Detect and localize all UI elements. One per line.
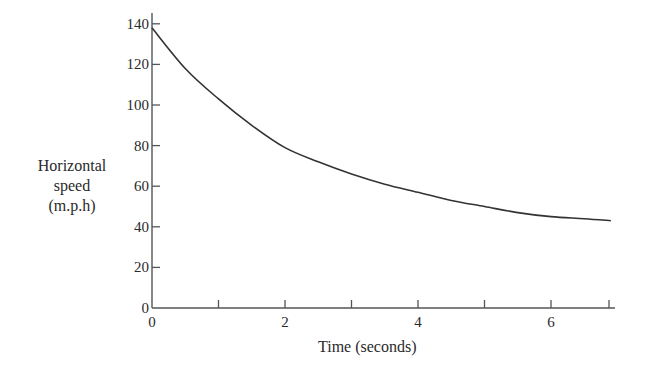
y-tick-label: 20: [134, 259, 149, 275]
y-tick-label: 40: [134, 219, 149, 235]
x-tick-label: 4: [414, 314, 422, 330]
y-tick-label: 140: [127, 16, 150, 32]
x-tick-label: 2: [281, 314, 289, 330]
x-tick-label: 0: [148, 314, 156, 330]
x-axis-label: Time (seconds): [318, 338, 417, 356]
y-axis-label-line-1: Horizontal: [22, 156, 122, 176]
y-tick-label: 100: [127, 97, 150, 113]
y-axis-label-line-3: (m.p.h): [22, 196, 122, 216]
y-axis-ticks: 020406080100120140: [127, 16, 161, 316]
x-tick-label: 6: [547, 314, 555, 330]
y-tick-label: 120: [127, 56, 150, 72]
x-axis-ticks: 0246: [148, 300, 609, 330]
y-axis-label: Horizontal speed (m.p.h): [22, 156, 122, 216]
y-tick-label: 80: [134, 138, 149, 154]
y-axis-label-line-2: speed: [22, 176, 122, 196]
y-tick-label: 60: [134, 178, 149, 194]
speed-curve: [152, 28, 611, 221]
axes: [152, 13, 615, 308]
